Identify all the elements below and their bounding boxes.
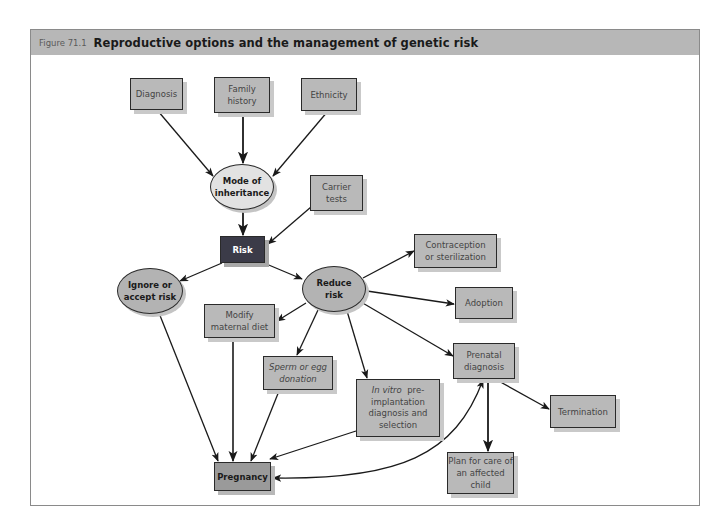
node-plan-line1: Plan for care of (448, 455, 513, 467)
edge-sperm-to-pregnancy (251, 391, 279, 461)
node-invitro-line2: implantation (371, 397, 425, 409)
node-reduce-risk: Reduce risk (302, 266, 366, 312)
node-adoption: Adoption (455, 287, 513, 319)
node-plan-line2: an affected child (448, 467, 513, 491)
node-risk-label: Risk (232, 244, 252, 256)
edge-invitro-to-pregnancy (270, 431, 356, 459)
node-ignore-or-accept-risk: Ignore or accept risk (117, 268, 183, 314)
node-termination: Termination (550, 395, 616, 428)
node-sperm-line2: donation (279, 373, 316, 385)
edge-risk-to-reduce (264, 263, 302, 279)
edge-reduce-to-diet (277, 303, 306, 321)
edge-risk-to-ignore (180, 263, 222, 281)
node-prenatal-diagnosis: Prenatal diagnosis (453, 343, 515, 379)
edge-reduce-to-prenatal (361, 302, 453, 356)
edge-diagnosis-to-mode (158, 111, 213, 176)
node-reduce-line2: risk (325, 289, 343, 301)
node-carrier-line2: tests (326, 193, 347, 205)
node-in-vitro: In vitro pre- implantation diagnosis and… (356, 379, 440, 437)
node-modify-maternal-diet: Modify maternal diet (204, 304, 275, 338)
node-invitro-line1: In vitro pre- (372, 385, 424, 397)
node-invitro-line1-rest: pre- (407, 385, 424, 395)
node-family-history: Family history (214, 77, 270, 113)
node-sperm-line1: Sperm or egg (269, 361, 327, 373)
diagram-edges (0, 0, 718, 530)
node-invitro-italic: In vitro (372, 385, 402, 395)
edge-reduce-to-contraception (363, 251, 414, 278)
edge-reduce-to-sperm (297, 310, 318, 355)
node-adoption-label: Adoption (465, 297, 503, 309)
node-diet-line2: maternal diet (211, 321, 268, 333)
node-invitro-line4: selection (379, 420, 417, 432)
edge-prenatal-to-termination (495, 379, 549, 409)
node-pregnancy: Pregnancy (214, 462, 271, 491)
node-prenatal-line1: Prenatal (466, 349, 501, 361)
edge-reduce-to-adoption (367, 291, 454, 304)
node-diagnosis-label: Diagnosis (136, 88, 177, 100)
edge-carrier-to-risk (268, 207, 311, 244)
node-ignore-line2: accept risk (124, 291, 177, 303)
node-ignore-line1: Ignore or (128, 279, 172, 291)
node-plan-for-care: Plan for care of an affected child (447, 452, 514, 494)
edge-ethnicity-to-mode (273, 111, 328, 176)
node-family-history-line2: history (227, 95, 256, 107)
node-carrier-line1: Carrier (322, 181, 351, 193)
node-ethnicity: Ethnicity (301, 78, 357, 111)
node-invitro-line3: diagnosis and (369, 408, 428, 420)
node-mode-line1: Mode of (223, 175, 262, 187)
node-contraception-line1: Contraception (425, 239, 485, 251)
node-contraception: Contraception or sterilization (414, 234, 497, 268)
node-reduce-line1: Reduce (316, 277, 351, 289)
edge-reduce-to-invitro (347, 311, 367, 378)
node-mode-of-inheritance: Mode of inheritance (210, 164, 274, 210)
node-family-history-line1: Family (228, 83, 255, 95)
node-diagnosis: Diagnosis (130, 78, 183, 110)
node-ethnicity-label: Ethnicity (310, 89, 347, 101)
node-pregnancy-label: Pregnancy (217, 471, 268, 483)
node-risk: Risk (220, 236, 265, 263)
node-sperm-or-egg-donation: Sperm or egg donation (263, 356, 333, 390)
node-diet-line1: Modify (225, 309, 253, 321)
node-termination-label: Termination (558, 406, 608, 418)
node-prenatal-line2: diagnosis (464, 361, 504, 373)
node-carrier-tests: Carrier tests (310, 175, 363, 211)
node-mode-line2: inheritance (215, 187, 270, 199)
node-contraception-line2: or sterilization (425, 251, 486, 263)
